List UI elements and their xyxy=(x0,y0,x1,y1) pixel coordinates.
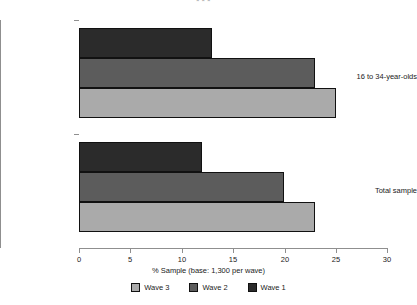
bar-total-wave1 xyxy=(79,142,202,172)
x-axis-tick-label-5: 5 xyxy=(118,255,142,264)
x-axis-tick-label-0: 0 xyxy=(67,255,91,264)
x-axis-tick-label-25: 25 xyxy=(324,255,348,264)
category-label-16-to-34-year-olds: 16 to 34-year-olds xyxy=(345,72,417,81)
y-axis-line xyxy=(0,20,1,248)
x-axis-tick-5 xyxy=(130,248,131,253)
bar-total-wave3 xyxy=(79,202,315,232)
x-axis-tick-label-15: 15 xyxy=(221,255,245,264)
x-axis-tick-15 xyxy=(233,248,234,253)
x-axis-tick-25 xyxy=(336,248,337,253)
legend-label-wave-2: Wave 2 xyxy=(202,283,227,292)
x-axis-tick-20 xyxy=(285,248,286,253)
y-axis-tick-top xyxy=(74,20,79,21)
y-axis-tick-middle xyxy=(74,134,79,135)
horizontal-bar-chart: *** 16 to 34-year-olds Total sample 0 5 … xyxy=(0,0,417,305)
x-axis-tick-0 xyxy=(79,248,80,253)
legend-label-wave-1: Wave 1 xyxy=(261,283,286,292)
category-label-total-sample: Total sample xyxy=(345,186,417,195)
legend-item-wave-3: Wave 3 xyxy=(131,283,169,292)
bar-total-wave2 xyxy=(79,172,284,202)
legend-swatch-icon-wave-3 xyxy=(131,283,140,292)
x-axis-tick-10 xyxy=(182,248,183,253)
legend-swatch-icon-wave-1 xyxy=(248,283,257,292)
x-axis-title: % Sample (base: 1,300 per wave) xyxy=(0,266,417,276)
bar-16to34-wave3 xyxy=(79,88,336,118)
bar-16to34-wave1 xyxy=(79,28,212,58)
legend-item-wave-2: Wave 2 xyxy=(189,283,227,292)
x-axis-tick-label-30: 30 xyxy=(375,255,399,264)
legend-item-wave-1: Wave 1 xyxy=(248,283,286,292)
chart-legend: Wave 3 Wave 2 Wave 1 xyxy=(0,283,417,292)
x-axis-tick-label-20: 20 xyxy=(273,255,297,264)
legend-swatch-icon-wave-2 xyxy=(189,283,198,292)
bar-16to34-wave2 xyxy=(79,58,315,88)
legend-label-wave-3: Wave 3 xyxy=(144,283,169,292)
x-axis-tick-30 xyxy=(387,248,388,253)
x-axis-tick-label-10: 10 xyxy=(170,255,194,264)
significance-marker: *** xyxy=(196,0,236,6)
